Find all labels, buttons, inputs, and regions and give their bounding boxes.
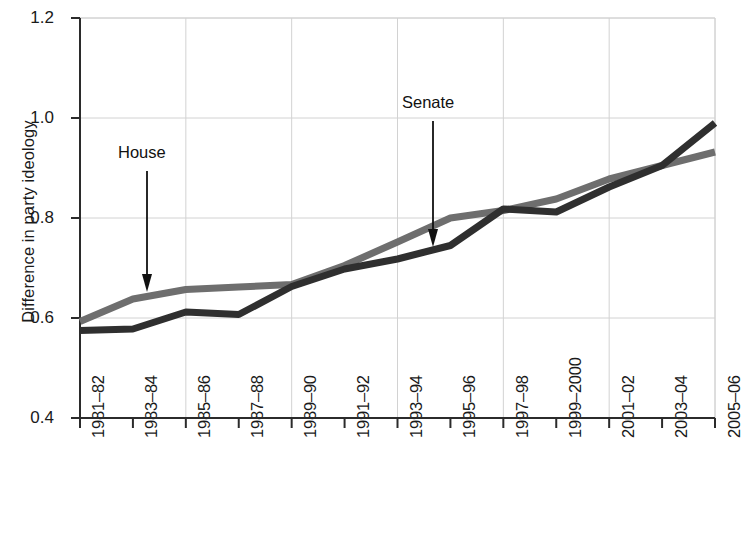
x-axis-ticks — [80, 418, 715, 428]
chart-figure: Difference in party ideology 1.2 1.0 0.8… — [0, 0, 742, 549]
annotation-arrows — [142, 121, 438, 292]
y-axis-ticks — [71, 18, 80, 418]
annotation-arrow-senate-head — [428, 229, 438, 247]
gridlines — [80, 18, 715, 418]
annotation-arrow-house-head — [142, 274, 152, 292]
chart-plot-area — [0, 0, 742, 549]
